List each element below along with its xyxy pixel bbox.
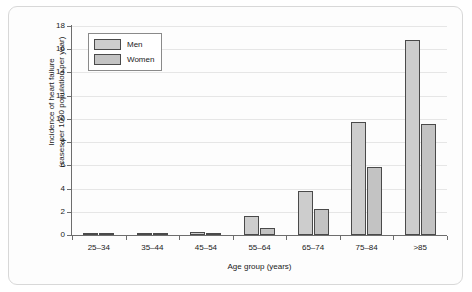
y-tick-label-14: 14 (25, 68, 65, 76)
x-tick-mark-4 (286, 236, 287, 240)
chart-figure: Incidence of heart failure (cases per 10… (0, 0, 472, 292)
gridline-14 (72, 72, 447, 73)
x-tick-label->85: >85 (390, 243, 450, 252)
legend-swatch-women-icon (94, 54, 121, 65)
bar-women-4554 (206, 233, 221, 235)
y-tick-label-10: 10 (25, 115, 65, 123)
y-tick-label-16: 16 (25, 45, 65, 53)
x-tick-mark-2 (179, 236, 180, 240)
legend-item-men: Men (94, 38, 154, 51)
x-tick-label-4554: 45–54 (176, 243, 236, 252)
x-tick-label-3544: 35–44 (122, 243, 182, 252)
x-axis-title: Age group (years) (72, 262, 447, 271)
y-tick-label-6: 6 (25, 161, 65, 169)
legend-item-women: Women (94, 53, 154, 66)
y-tick-label-2: 2 (25, 208, 65, 216)
gridline-6 (72, 165, 447, 166)
bar-men-3544 (137, 233, 152, 235)
gridline-4 (72, 189, 447, 190)
bar-men-5564 (244, 216, 259, 235)
legend-label-men: Men (127, 40, 143, 49)
legend-swatch-men-icon (94, 39, 121, 50)
x-tick-mark-6 (393, 236, 394, 240)
bar-women-6574 (314, 209, 329, 235)
bar-men-7584 (351, 122, 366, 235)
x-tick-mark-7 (447, 236, 448, 240)
x-tick-mark-0 (72, 236, 73, 240)
y-tick-label-0: 0 (25, 231, 65, 239)
x-tick-label-5564: 55–64 (230, 243, 290, 252)
bar-men-6574 (298, 191, 313, 235)
gridline-18 (72, 26, 447, 27)
gridline-10 (72, 119, 447, 120)
y-axis-tick-labels: 024681012141618 (20, 0, 65, 292)
bar-men-4554 (190, 232, 205, 235)
x-tick-label-6574: 65–74 (283, 243, 343, 252)
y-tick-label-8: 8 (25, 138, 65, 146)
bar-women-5564 (260, 228, 275, 235)
gridline-12 (72, 96, 447, 97)
bar-women-2534 (99, 233, 114, 235)
bar-women-3544 (153, 233, 168, 235)
x-tick-label-2534: 25–34 (69, 243, 129, 252)
chart-legend: Men Women (88, 33, 162, 71)
bar-men-2534 (83, 233, 98, 235)
gridline-0 (72, 235, 447, 236)
legend-label-women: Women (127, 55, 154, 64)
bar-women-7584 (367, 167, 382, 236)
x-tick-mark-5 (340, 236, 341, 240)
gridline-2 (72, 212, 447, 213)
y-tick-label-4: 4 (25, 185, 65, 193)
y-tick-label-18: 18 (25, 22, 65, 30)
gridline-8 (72, 142, 447, 143)
bar-men->85 (405, 40, 420, 235)
y-tick-label-12: 12 (25, 92, 65, 100)
x-tick-mark-3 (233, 236, 234, 240)
bar-women->85 (421, 124, 436, 235)
x-tick-label-7584: 75–84 (337, 243, 397, 252)
x-tick-mark-1 (126, 236, 127, 240)
